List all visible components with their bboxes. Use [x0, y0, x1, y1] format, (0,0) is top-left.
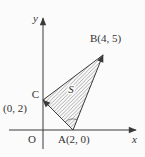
origin-label: O: [28, 133, 36, 145]
point-B-label: B(4, 5): [90, 32, 122, 45]
y-axis-label: y: [32, 12, 38, 24]
point-C-label: C: [32, 88, 39, 100]
area-S-label: S: [68, 83, 74, 95]
point-C-coordinates-label: (0, 2): [3, 102, 27, 115]
coordinate-plane-figure: y x O B(4, 5) C (0, 2) A(2, 0) S: [0, 0, 145, 157]
triangle-diagram-svg: y x O B(4, 5) C (0, 2) A(2, 0) S: [0, 0, 145, 157]
x-axis-label: x: [131, 133, 137, 145]
point-A-label: A(2, 0): [58, 133, 90, 146]
